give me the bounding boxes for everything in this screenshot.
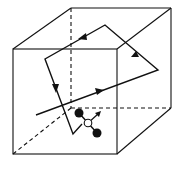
arrow-icon <box>95 88 104 95</box>
atom <box>93 129 102 138</box>
box-diagram <box>0 0 180 179</box>
atom <box>75 109 84 118</box>
molecule-center <box>84 119 92 127</box>
trajectory <box>36 25 158 134</box>
hidden-edges <box>13 8 171 154</box>
front-face <box>13 49 117 154</box>
arrow-icon <box>78 33 87 40</box>
arrow-icon <box>52 84 59 93</box>
diagram-canvas <box>0 0 180 179</box>
back-face-edges <box>71 8 171 108</box>
depth-edges <box>13 8 171 154</box>
molecule <box>75 109 102 138</box>
arrow-icon <box>131 51 139 57</box>
